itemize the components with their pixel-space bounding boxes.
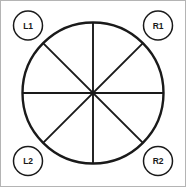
node-r2[interactable]: R2 xyxy=(144,147,173,176)
node-l2-label: L2 xyxy=(23,156,33,166)
node-r1[interactable]: R1 xyxy=(144,11,173,40)
node-r2-label: R2 xyxy=(153,156,164,166)
diagram-frame: L1 R1 L2 R2 xyxy=(0,0,186,187)
node-l2[interactable]: L2 xyxy=(14,147,43,176)
node-l1-label: L1 xyxy=(23,21,33,31)
node-r1-label: R1 xyxy=(153,21,164,31)
sector-dividers xyxy=(23,23,164,164)
node-l1[interactable]: L1 xyxy=(14,11,43,40)
diagram-canvas: L1 R1 L2 R2 xyxy=(0,0,186,187)
